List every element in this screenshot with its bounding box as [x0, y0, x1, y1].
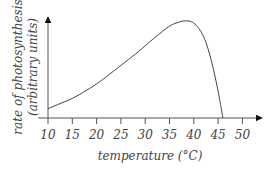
- x-tick-label: 45: [209, 128, 225, 142]
- x-tick-label: 25: [112, 128, 128, 142]
- x-tick-label: 20: [88, 128, 105, 142]
- axes: [38, 17, 262, 118]
- x-tick-labels: 101520253035404550: [40, 128, 250, 142]
- x-tick-label: 10: [40, 128, 56, 142]
- x-tick-label: 30: [138, 128, 154, 142]
- x-ticks: [48, 118, 242, 124]
- data-series-line: [48, 21, 223, 118]
- x-tick-label: 50: [235, 128, 251, 142]
- x-axis-title: temperature (°C): [98, 149, 203, 163]
- x-tick-label: 15: [65, 128, 80, 142]
- chart: 101520253035404550 temperature (°C) rate…: [0, 0, 271, 169]
- y-axis-title-line2: (arbitrary units): [26, 18, 40, 116]
- x-tick-label: 40: [185, 128, 202, 142]
- y-axis-title-line1: rate of photosynthesis: [11, 0, 25, 135]
- x-tick-label: 35: [162, 128, 177, 142]
